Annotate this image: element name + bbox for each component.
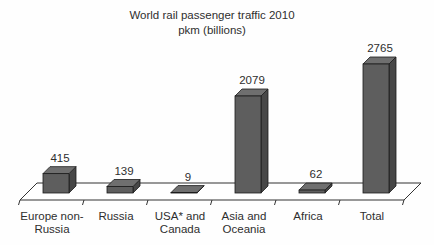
chart-title: World rail passenger traffic 2010 — [129, 9, 294, 21]
bar-front-face — [43, 174, 69, 193]
value-label-usa-and-canada: 9 — [185, 171, 191, 183]
category-label-europe-non-russia: Europe non-Russia — [20, 210, 83, 235]
bar-front-face — [299, 190, 325, 193]
value-label-asia-and-oceania: 2079 — [239, 74, 265, 86]
axis-tick — [275, 200, 277, 205]
value-label-europe-non-russia: 415 — [50, 152, 69, 164]
value-label-total: 2765 — [367, 42, 393, 54]
category-label-africa: Africa — [293, 210, 323, 222]
chart-subtitle: pkm (billions) — [178, 24, 246, 36]
category-label-total: Total — [360, 210, 384, 222]
axis-tick — [403, 200, 405, 205]
chart-figure: 415Europe non-Russia139Russia9USA* andCa… — [0, 0, 434, 245]
bar-front-face — [363, 64, 389, 193]
axis-tick — [147, 200, 149, 205]
axis-tick — [339, 200, 341, 205]
category-label-asia-and-oceania: Asia andOceania — [222, 210, 267, 235]
bar-asia-and-oceania: 2079Asia andOceania — [222, 74, 268, 235]
axis-tick — [211, 200, 213, 205]
axis-tick — [19, 200, 21, 205]
value-label-africa: 62 — [310, 168, 323, 180]
bar-front-face — [107, 187, 133, 193]
bar-side-face — [261, 89, 268, 193]
category-label-usa-and-canada: USA* andCanada — [155, 210, 206, 235]
plot-area: 415Europe non-Russia139Russia9USA* andCa… — [19, 42, 422, 235]
category-label-russia: Russia — [98, 210, 134, 222]
bar-usa-and-canada: 9USA* andCanada — [155, 171, 206, 235]
axis-tick — [83, 200, 85, 205]
chart-floor — [20, 183, 421, 200]
value-label-russia: 139 — [114, 165, 133, 177]
bar-side-face — [389, 57, 396, 193]
bar-front-face — [235, 96, 261, 193]
bar-chart-3d: 415Europe non-Russia139Russia9USA* andCa… — [0, 0, 434, 245]
